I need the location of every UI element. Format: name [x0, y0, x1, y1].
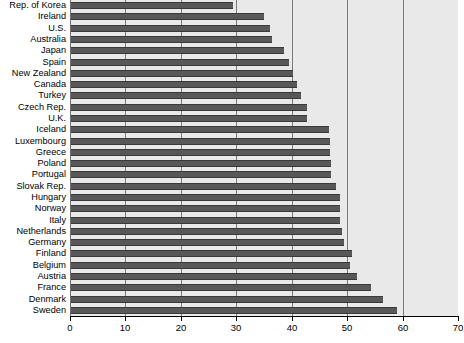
bar — [70, 2, 233, 9]
bar — [70, 115, 307, 122]
bar-chart: Rep. of KoreaIrelandU.S.AustraliaJapanSp… — [0, 0, 464, 343]
bar — [70, 194, 340, 201]
bar — [70, 171, 331, 178]
category-label: Iceland — [36, 124, 66, 135]
bar — [70, 47, 284, 54]
category-label: Norway — [35, 203, 66, 214]
category-label: Czech Rep. — [18, 102, 66, 113]
x-axis-line — [70, 316, 459, 317]
category-label: Austria — [37, 271, 66, 282]
tick-mark — [181, 317, 182, 321]
tick-mark — [403, 317, 404, 321]
category-label: New Zealand — [12, 68, 66, 79]
category-label: U.S. — [48, 23, 66, 34]
category-label: Greece — [36, 147, 66, 158]
category-label: Sweden — [33, 305, 66, 316]
category-label: Portugal — [32, 169, 66, 180]
category-label: Hungary — [31, 192, 66, 203]
tick-mark — [458, 317, 459, 321]
bar — [70, 250, 352, 257]
bar — [70, 228, 342, 235]
category-label: Ireland — [38, 11, 66, 22]
bar — [70, 217, 340, 224]
category-label: Italy — [49, 215, 66, 226]
category-label: Rep. of Korea — [9, 0, 66, 11]
tick-mark — [292, 317, 293, 321]
gridline-60 — [403, 0, 404, 316]
plot-left-edge — [70, 0, 71, 317]
bar — [70, 205, 340, 212]
tick-mark — [125, 317, 126, 321]
category-label: Australia — [30, 34, 66, 45]
bar — [70, 13, 264, 20]
category-label: Germany — [28, 237, 66, 248]
category-label: U.K. — [48, 113, 66, 124]
category-label: Poland — [37, 158, 66, 169]
bar — [70, 273, 357, 280]
category-label: Canada — [34, 79, 66, 90]
bar — [70, 81, 297, 88]
bar — [70, 92, 301, 99]
bar — [70, 104, 307, 111]
bar — [70, 149, 330, 156]
bar — [70, 36, 272, 43]
tick-mark — [347, 317, 348, 321]
bar — [70, 183, 336, 190]
category-label: Turkey — [38, 90, 66, 101]
bar — [70, 25, 270, 32]
bar — [70, 284, 371, 291]
bar — [70, 70, 293, 77]
tick-mark — [70, 317, 71, 321]
tick-label: 50 — [332, 322, 362, 334]
bar — [70, 262, 350, 269]
tick-label: 30 — [221, 322, 251, 334]
plot-area — [70, 0, 458, 316]
tick-label: 70 — [443, 322, 464, 334]
category-label: Slovak Rep. — [16, 181, 66, 192]
category-label: Netherlands — [16, 226, 66, 237]
bar — [70, 239, 344, 246]
tick-label: 40 — [277, 322, 307, 334]
bar — [70, 296, 383, 303]
tick-mark — [236, 317, 237, 321]
bar — [70, 307, 397, 314]
bar — [70, 138, 330, 145]
category-label: Spain — [43, 57, 67, 68]
tick-label: 10 — [110, 322, 140, 334]
category-axis-labels: Rep. of KoreaIrelandU.S.AustraliaJapanSp… — [0, 0, 68, 316]
category-label: Denmark — [29, 294, 66, 305]
bar — [70, 160, 331, 167]
category-label: Finland — [36, 248, 66, 259]
category-label: Japan — [41, 45, 66, 56]
category-label: Belgium — [33, 260, 66, 271]
category-label: France — [37, 282, 66, 293]
tick-label: 60 — [388, 322, 418, 334]
bar — [70, 59, 289, 66]
bar — [70, 126, 329, 133]
tick-label: 0 — [55, 322, 85, 334]
category-label: Luxembourg — [15, 136, 66, 147]
tick-label: 20 — [166, 322, 196, 334]
